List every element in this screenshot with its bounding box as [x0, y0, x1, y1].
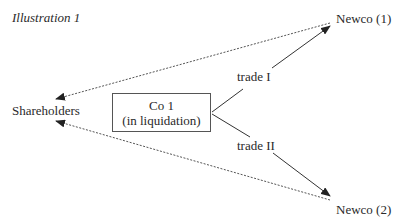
company-in-liquidation-node: Co 1 (in liquidation)	[112, 93, 211, 132]
newco1-node: Newco (1)	[336, 12, 391, 25]
shareholders-node: Shareholders	[12, 104, 80, 117]
trade1-label: trade I	[237, 70, 271, 83]
company-status: (in liquidation)	[122, 113, 200, 128]
distribution-arrow-1	[56, 23, 330, 99]
distribution-arrow-2	[56, 121, 330, 200]
company-name: Co 1	[149, 98, 174, 113]
trade2-arrow	[212, 114, 330, 196]
newco2-node: Newco (2)	[336, 203, 391, 216]
trade2-label: trade II	[237, 139, 275, 152]
illustration-title: Illustration 1	[12, 11, 80, 24]
